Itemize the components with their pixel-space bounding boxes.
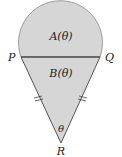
label-angle-theta: θ <box>58 123 64 134</box>
label-q: Q <box>105 51 114 64</box>
segment-a-region <box>19 1 103 57</box>
label-p: P <box>7 51 16 64</box>
diagram: A(θ) B(θ) P Q R θ <box>0 0 122 157</box>
geometry-figure: A(θ) B(θ) P Q R θ <box>0 0 122 157</box>
label-b-theta: B(θ) <box>48 67 72 80</box>
label-a-theta: A(θ) <box>48 30 72 43</box>
label-r: R <box>56 145 65 157</box>
